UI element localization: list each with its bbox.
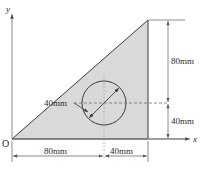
- bottom-left-dimension-label: 80mm: [44, 146, 67, 156]
- y-axis-label: y: [5, 4, 10, 14]
- figure-canvas: y x O 80mm 40mm 80mm 40mm 40mm: [0, 0, 205, 169]
- circle-diameter-label: 40mm: [44, 98, 67, 108]
- technical-drawing-figure: y x O 80mm 40mm 80mm 40mm 40mm: [0, 0, 205, 169]
- bottom-right-dimension-label: 40mm: [110, 146, 133, 156]
- right-lower-dimension-label: 40mm: [171, 116, 194, 126]
- right-upper-dimension-label: 80mm: [171, 56, 194, 66]
- triangle-shape: [12, 20, 148, 139]
- x-axis-label: x: [192, 134, 197, 144]
- origin-label: O: [2, 138, 9, 149]
